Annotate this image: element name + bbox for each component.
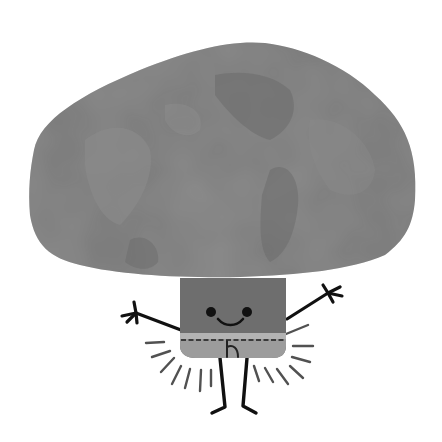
right-eye bbox=[242, 307, 252, 317]
mushroom-illustration bbox=[0, 0, 442, 442]
mushroom-stem bbox=[180, 278, 286, 358]
left-eye bbox=[206, 307, 216, 317]
